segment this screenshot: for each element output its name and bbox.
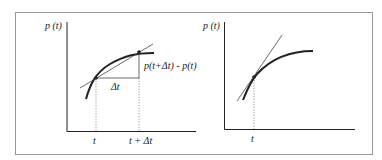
point-t-plus-dt bbox=[137, 50, 141, 54]
right-tick-t: t bbox=[251, 133, 254, 144]
figure-frame bbox=[16, 13, 373, 155]
left-panel-secant: p (t) Δt p(t+Δt) - p(t) t t + Δt bbox=[44, 20, 197, 146]
left-y-axis-label: p (t) bbox=[44, 20, 63, 32]
derivative-diagram: p (t) Δt p(t+Δt) - p(t) t t + Δt p (t) t bbox=[0, 0, 382, 160]
delta-t-label: Δt bbox=[110, 81, 120, 92]
difference-label: p(t+Δt) - p(t) bbox=[143, 60, 197, 72]
left-tick-t-plus-dt: t + Δt bbox=[129, 135, 152, 146]
right-y-axis-label: p (t) bbox=[202, 20, 221, 32]
left-tick-t: t bbox=[93, 135, 96, 146]
tangent-line bbox=[237, 35, 282, 101]
right-panel-tangent: p (t) t bbox=[202, 20, 355, 144]
